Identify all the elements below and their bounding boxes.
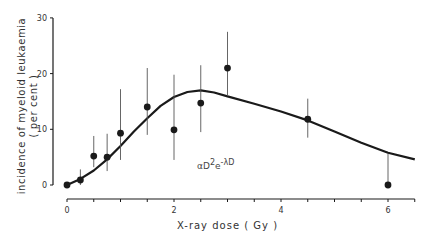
data-point bbox=[224, 65, 231, 72]
x-axis-label: X-ray dose ( Gy ) bbox=[0, 220, 425, 231]
data-point bbox=[197, 100, 204, 107]
data-point bbox=[385, 182, 392, 189]
data-point bbox=[64, 182, 71, 189]
formula-base: αD bbox=[197, 161, 210, 171]
x-tick-label: 6 bbox=[385, 206, 390, 215]
formula-exp2: -λD bbox=[221, 158, 235, 167]
y-tick-label: 0 bbox=[42, 181, 47, 190]
data-point bbox=[144, 104, 151, 111]
data-point bbox=[104, 154, 111, 161]
data-point bbox=[77, 177, 84, 184]
fit-curve bbox=[67, 90, 415, 185]
y-axis-label-line1: incidence of myeloid leukaemia bbox=[16, 6, 28, 206]
data-point bbox=[171, 126, 178, 133]
data-point bbox=[117, 130, 124, 137]
y-axis-label: incidence of myeloid leukaemia ( per cen… bbox=[16, 6, 40, 206]
chart-canvas: 01020300246 bbox=[0, 0, 425, 239]
formula-annotation: αD2e-λD bbox=[197, 158, 234, 171]
x-tick-label: 0 bbox=[64, 206, 69, 215]
x-tick-label: 2 bbox=[171, 206, 176, 215]
x-tick-label: 4 bbox=[278, 206, 283, 215]
data-point bbox=[90, 153, 97, 160]
y-axis-label-line2: ( per cent ) bbox=[28, 6, 40, 206]
data-point bbox=[304, 116, 311, 123]
